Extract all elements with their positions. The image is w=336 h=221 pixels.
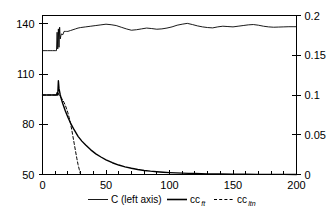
y-left-tick-label: 80 xyxy=(22,118,34,130)
y-left-tick-label: 50 xyxy=(22,169,34,181)
y-right-tick-label: 0.1 xyxy=(305,89,320,101)
chart-figure: 050100150200 5080110140 00.050.10.150.2 … xyxy=(0,0,336,221)
y-left-tick-label: 110 xyxy=(17,68,35,80)
y-right-tick-label: 0.05 xyxy=(305,129,326,141)
y-right-tick-label: 0 xyxy=(305,169,311,181)
x-tick-label: 150 xyxy=(224,179,242,191)
x-tick-label: 0 xyxy=(39,179,45,191)
y-left-tick-label: 140 xyxy=(16,18,34,30)
legend-label-cc-ft: cc xyxy=(190,194,200,205)
y-right-tick-label: 0.2 xyxy=(305,10,320,22)
x-tick-label: 50 xyxy=(100,179,112,191)
x-tick-label: 100 xyxy=(160,179,178,191)
x-tick-label: 200 xyxy=(287,179,305,191)
y-right-tick-label: 0.15 xyxy=(305,49,326,61)
legend-label-cc-ltn: cc xyxy=(237,194,247,205)
legend-label-c-left-axis: C (left axis) xyxy=(111,194,162,205)
legend-label-sub-cc-ltn: ltn xyxy=(248,200,256,207)
chart-plot-svg: 050100150200 5080110140 00.050.10.150.2 … xyxy=(0,0,336,221)
